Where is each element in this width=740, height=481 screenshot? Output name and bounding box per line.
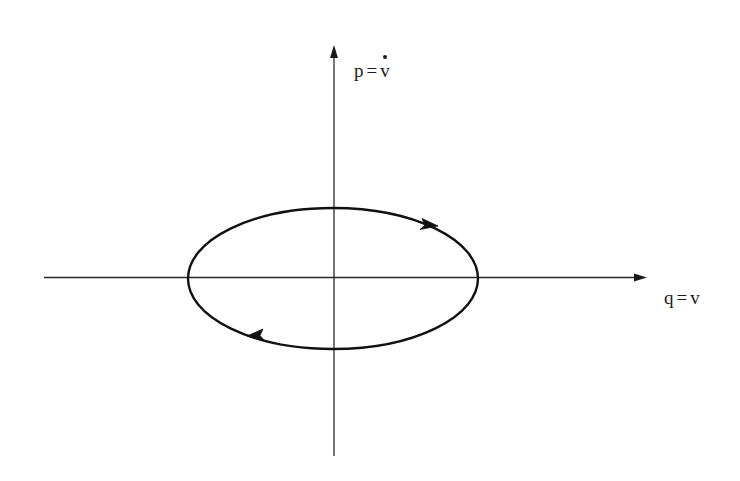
q-axis-label-equals: = <box>677 287 688 308</box>
q-axis-label: q=v <box>664 288 700 307</box>
p-axis-arrowhead-icon <box>330 45 338 58</box>
p-axis-label-equals: = <box>367 60 378 81</box>
orbit-ellipse <box>188 208 478 349</box>
q-axis-label-rhs: v <box>690 287 700 308</box>
p-axis-label: p=v <box>354 61 390 80</box>
q-axis-arrowhead-icon <box>634 274 647 282</box>
p-axis-label-rhs: v <box>380 61 390 80</box>
q-axis-label-lhs: q <box>664 287 674 308</box>
p-axis-label-lhs: p <box>354 60 364 81</box>
